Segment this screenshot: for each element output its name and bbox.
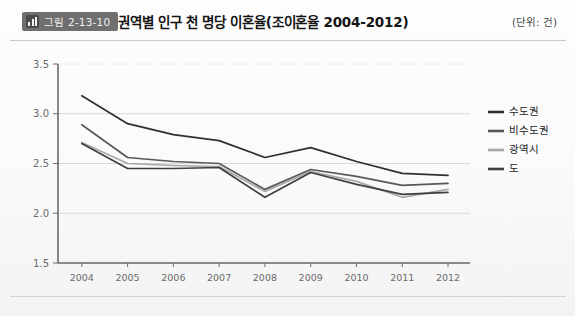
y-axis-label: 3.0 [33, 108, 49, 119]
y-axis-label: 3.5 [33, 59, 49, 70]
legend-label-비수도권: 비수도권 [509, 124, 549, 136]
y-axis-label: 1.5 [33, 258, 49, 269]
x-axis-label: 2009 [299, 272, 323, 283]
legend-label-도: 도 [509, 162, 519, 174]
figure-number-label: 그림 2-13-10 [44, 14, 110, 29]
legend-label-수도권: 수도권 [509, 105, 539, 117]
data-series-group [82, 96, 448, 198]
x-axis-label: 2012 [436, 272, 460, 283]
y-axis-label: 2.0 [33, 208, 49, 219]
unit-note: (단위: 건) [512, 14, 557, 29]
figure-title: 권역별 인구 천 명당 이혼율(조이혼율 2004-2012) [118, 11, 408, 31]
chart-area: 1.52.02.53.03.5 200420052006200720082009… [0, 44, 575, 294]
y-axis-label: 2.5 [33, 158, 49, 169]
x-axis-label: 2007 [207, 272, 231, 283]
x-axis-label: 2011 [390, 272, 414, 283]
bar-chart-icon [26, 15, 39, 28]
legend-label-광역시: 광역시 [509, 143, 539, 155]
figure-number-badge: 그림 2-13-10 [22, 12, 118, 31]
footer-divider [10, 296, 566, 297]
chart-legend: 수도권비수도권광역시도 [488, 105, 549, 174]
x-axis-label: 2006 [161, 272, 185, 283]
x-axis-label: 2008 [253, 272, 277, 283]
line-chart: 1.52.02.53.03.5 200420052006200720082009… [0, 44, 575, 294]
figure-page: 그림 2-13-10 권역별 인구 천 명당 이혼율(조이혼율 2004-201… [0, 0, 575, 316]
x-axis-ticks: 200420052006200720082009201020112012 [70, 263, 460, 283]
y-axis-ticks: 1.52.02.53.03.5 [33, 59, 58, 269]
figure-header: 그림 2-13-10 권역별 인구 천 명당 이혼율(조이혼율 2004-201… [0, 8, 575, 40]
header-divider [10, 40, 566, 41]
x-axis-label: 2010 [344, 272, 368, 283]
x-axis-label: 2004 [70, 272, 94, 283]
x-axis-label: 2005 [115, 272, 139, 283]
